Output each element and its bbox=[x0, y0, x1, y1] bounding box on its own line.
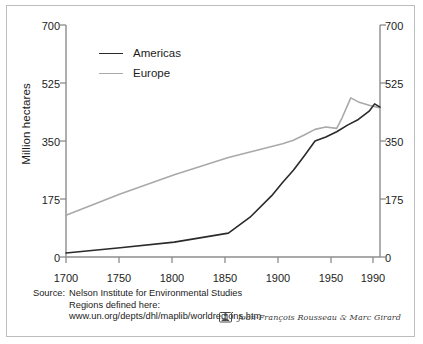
legend-label-americas: Americas bbox=[133, 48, 181, 60]
line-chart: Million hectares 700 525 350 175 0 700 5… bbox=[0, 0, 423, 344]
source-spacer-2 bbox=[33, 311, 69, 323]
legend-item-europe: Europe bbox=[99, 65, 181, 82]
source-spacer-1 bbox=[33, 300, 69, 312]
author-emblem-icon bbox=[218, 310, 234, 324]
x-axis-ticks bbox=[66, 257, 373, 263]
series-line-americas bbox=[66, 104, 380, 253]
legend-item-americas: Americas bbox=[99, 45, 181, 62]
y-axis-ticks-left bbox=[60, 25, 66, 257]
legend-swatch-americas bbox=[99, 53, 123, 54]
y-axis-ticks-right bbox=[380, 25, 386, 257]
author-names: Jean-François Rousseau & Marc Girard bbox=[238, 313, 401, 322]
source-line-1: Source: Nelson Institute for Environment… bbox=[33, 288, 261, 300]
source-label: Source: bbox=[33, 288, 69, 300]
author-credit: Jean-François Rousseau & Marc Girard bbox=[218, 310, 401, 324]
chart-legend: Americas Europe bbox=[99, 45, 181, 85]
chart-page: Million hectares 700 525 350 175 0 700 5… bbox=[0, 0, 423, 344]
source-institute: Nelson Institute for Environmental Studi… bbox=[69, 288, 261, 300]
legend-label-europe: Europe bbox=[133, 68, 170, 80]
series-line-europe bbox=[66, 98, 380, 215]
legend-swatch-europe bbox=[99, 73, 123, 74]
